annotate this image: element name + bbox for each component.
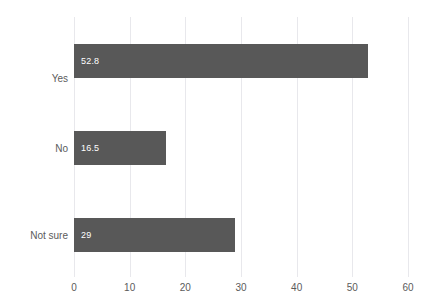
bar-value-yes: 52.8 [81,57,99,66]
x-tick-40: 40 [291,282,302,293]
category-label-no: No [55,143,68,154]
y-axis-category-labels: Yes No Not sure [0,17,68,277]
bar-no[interactable]: 16.5 [74,131,166,165]
bar-yes[interactable]: 52.8 [74,44,368,78]
gridline-60 [408,17,409,277]
x-tick-20: 20 [180,282,191,293]
bar-value-no: 16.5 [81,144,99,153]
category-label-yes: Yes [52,73,68,84]
plot-area: 52.8 16.5 29 [74,17,408,277]
x-axis-tick-labels: 0 10 20 30 40 50 60 [74,282,408,302]
x-tick-0: 0 [71,282,77,293]
x-tick-60: 60 [402,282,413,293]
bar-not-sure[interactable]: 29 [74,218,235,252]
bar-value-not-sure: 29 [81,231,91,240]
category-label-not-sure: Not sure [30,230,68,241]
x-tick-50: 50 [347,282,358,293]
x-tick-10: 10 [124,282,135,293]
x-tick-30: 30 [235,282,246,293]
bar-chart: Yes No Not sure 52.8 16.5 29 0 10 20 30 … [0,0,430,307]
